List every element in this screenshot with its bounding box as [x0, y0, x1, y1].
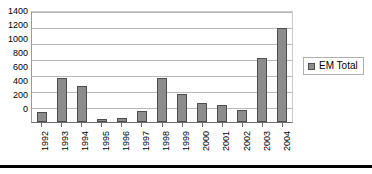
legend-label-em-total: EM Total — [319, 61, 358, 71]
bar[interactable] — [97, 119, 107, 122]
bottom-divider-rule — [0, 165, 372, 168]
y-tick-label: 600 — [13, 63, 28, 72]
x-label-slot: 1993 — [51, 127, 71, 159]
y-tick-label: 200 — [13, 91, 28, 100]
x-label-slot: 2003 — [253, 127, 273, 159]
y-tick-label: 1200 — [8, 21, 28, 30]
bar-slot — [32, 12, 52, 122]
bar-slot — [212, 12, 232, 122]
x-tick-label: 2002 — [243, 131, 252, 151]
bar[interactable] — [117, 118, 127, 122]
y-tick-label: 0 — [23, 105, 28, 114]
x-tick-label: 2004 — [283, 131, 292, 151]
bar-slot — [172, 12, 192, 122]
bar[interactable] — [197, 103, 207, 122]
x-label-slot: 2000 — [192, 127, 212, 159]
x-label-slot: 1995 — [91, 127, 111, 159]
bar-slot — [152, 12, 172, 122]
x-tick-label: 2003 — [263, 131, 272, 151]
bar[interactable] — [257, 58, 267, 122]
x-label-slot: 2002 — [233, 127, 253, 159]
x-label-slot: 2001 — [212, 127, 232, 159]
x-tick-label: 1999 — [182, 131, 191, 151]
legend-swatch-em-total — [308, 63, 315, 70]
x-tick-label: 1992 — [41, 131, 50, 151]
bar-slot — [92, 12, 112, 122]
bar[interactable] — [177, 94, 187, 122]
y-tick-label: 400 — [13, 77, 28, 86]
y-tick-label: 1400 — [8, 7, 28, 16]
bar-slot — [72, 12, 92, 122]
x-label-slot: 2004 — [273, 127, 293, 159]
bar-chart-figure: 1400 1200 1000 800 600 400 200 0 1992199… — [0, 0, 372, 174]
x-axis: 1992199319941995199619971998199920002001… — [31, 127, 293, 159]
plot-area — [31, 11, 293, 123]
bar-slot — [132, 12, 152, 122]
x-label-slot: 1994 — [71, 127, 91, 159]
bars-layer — [32, 12, 292, 122]
bar[interactable] — [137, 111, 147, 122]
bar-slot — [272, 12, 292, 122]
x-tick-label: 1993 — [61, 131, 70, 151]
x-label-slot: 1999 — [172, 127, 192, 159]
bar[interactable] — [57, 78, 67, 122]
x-tick-label: 1997 — [142, 131, 151, 151]
x-tick-label: 1994 — [81, 131, 90, 151]
bar[interactable] — [277, 28, 287, 122]
bar-slot — [52, 12, 72, 122]
y-axis: 1400 1200 1000 800 600 400 200 0 — [0, 0, 30, 130]
x-label-slot: 1996 — [112, 127, 132, 159]
bar[interactable] — [37, 112, 47, 122]
bar[interactable] — [157, 78, 167, 122]
bar-slot — [192, 12, 212, 122]
x-label-slot: 1998 — [152, 127, 172, 159]
legend: EM Total — [303, 57, 364, 75]
bar-slot — [232, 12, 252, 122]
x-tick-label: 2001 — [222, 131, 231, 151]
bar[interactable] — [217, 105, 227, 122]
y-tick-label: 800 — [13, 49, 28, 58]
y-tick-label: 1000 — [8, 35, 28, 44]
bar-slot — [112, 12, 132, 122]
bar-slot — [252, 12, 272, 122]
x-tick-label: 1998 — [162, 131, 171, 151]
bar[interactable] — [77, 86, 87, 122]
bar[interactable] — [237, 110, 247, 122]
x-label-slot: 1992 — [31, 127, 51, 159]
x-tick-label: 1995 — [102, 131, 111, 151]
x-label-slot: 1997 — [132, 127, 152, 159]
x-tick-label: 1996 — [122, 131, 131, 151]
x-tick-label: 2000 — [202, 131, 211, 151]
